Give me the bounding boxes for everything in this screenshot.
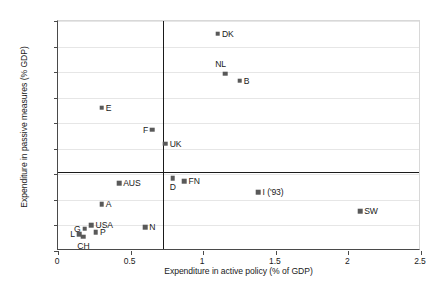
gridline-horizontal <box>58 98 419 99</box>
gridline-horizontal <box>58 72 419 73</box>
data-point-label: NL <box>215 59 226 69</box>
x-axis-tick <box>276 251 277 255</box>
y-axis-tick <box>54 200 58 201</box>
data-point-marker <box>99 202 104 207</box>
x-axis-tick-label: 2 <box>345 256 350 266</box>
data-point-marker <box>99 106 104 111</box>
gridline-horizontal <box>58 174 419 175</box>
data-point-label: L <box>70 229 75 239</box>
data-point-marker <box>182 179 187 184</box>
x-axis-tick <box>58 251 59 255</box>
data-point-marker <box>83 226 88 231</box>
x-axis-tick <box>203 251 204 255</box>
x-axis-tick <box>131 251 132 255</box>
x-axis-tick-label: 1.5 <box>269 256 281 266</box>
x-axis-tick-label: 0.5 <box>124 256 136 266</box>
x-axis-title: Expenditure in active policy (% of GDP) <box>57 266 420 276</box>
data-point-marker <box>163 141 168 146</box>
data-point-label: AUS <box>123 178 140 188</box>
data-point-label: FN <box>189 176 200 186</box>
scatter-chart: DKNLBEFUKDFNAUSI ('93)ASWUSANGPLCH Expen… <box>0 0 439 297</box>
data-point-marker <box>117 181 122 186</box>
data-point-label: UK <box>170 139 182 149</box>
data-point-marker <box>143 225 148 230</box>
gridline-horizontal <box>58 123 419 124</box>
data-point-label: P <box>100 227 106 237</box>
data-point-label: A <box>106 199 112 209</box>
gridline-horizontal <box>58 47 419 48</box>
data-point-label: N <box>149 222 155 232</box>
gridline-horizontal <box>58 21 419 22</box>
data-point-label: CH <box>77 241 89 251</box>
y-axis-tick <box>54 72 58 73</box>
data-point-marker <box>170 176 175 181</box>
y-axis-tick <box>54 149 58 150</box>
data-point-label: D <box>170 182 176 192</box>
reference-line-vertical <box>163 21 164 249</box>
y-axis-tick <box>54 174 58 175</box>
data-point-marker <box>256 190 261 195</box>
data-point-marker <box>150 128 155 133</box>
data-point-marker <box>358 209 363 214</box>
data-point-marker <box>223 71 228 76</box>
y-axis-tick <box>54 123 58 124</box>
data-point-marker <box>89 223 94 228</box>
data-point-marker <box>81 234 86 239</box>
x-axis-tick-label: 0 <box>55 256 60 266</box>
y-axis-tick <box>54 21 58 22</box>
x-axis-tick <box>348 251 349 255</box>
x-axis-tick-label: 1 <box>200 256 205 266</box>
data-point-marker <box>93 230 98 235</box>
data-point-marker <box>215 31 220 36</box>
x-axis-tick-label: 2.5 <box>414 256 426 266</box>
gridline-horizontal <box>58 149 419 150</box>
data-point-label: E <box>106 103 112 113</box>
data-point-label: F <box>143 125 148 135</box>
y-axis-tick <box>54 98 58 99</box>
reference-line-horizontal <box>58 172 419 173</box>
gridline-horizontal <box>58 200 419 201</box>
data-point-label: B <box>244 76 250 86</box>
y-axis-tick <box>54 225 58 226</box>
data-point-label: DK <box>222 29 234 39</box>
data-point-marker <box>237 79 242 84</box>
y-axis-tick <box>54 47 58 48</box>
plot-area: DKNLBEFUKDFNAUSI ('93)ASWUSANGPLCH <box>57 20 420 250</box>
y-axis-title: Expenditure in passive measures (% GDP) <box>19 7 29 247</box>
data-point-label: I ('93) <box>263 187 284 197</box>
x-axis-tick <box>421 251 422 255</box>
data-point-label: SW <box>364 206 378 216</box>
